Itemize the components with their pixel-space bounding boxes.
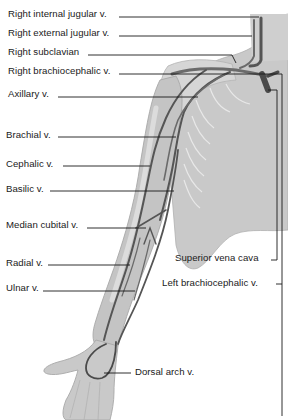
label-ulnar: Ulnar v. — [6, 282, 39, 293]
vein-diagram: Right internal jugular v. Right external… — [0, 0, 288, 420]
label-left-brachiocephalic: Left brachiocephalic v. — [162, 277, 258, 288]
label-axillary: Axillary v. — [8, 88, 49, 99]
label-median-cubital: Median cubital v. — [6, 219, 78, 230]
label-superior-vena-cava: Superior vena cava — [175, 252, 259, 263]
label-dorsal-arch: Dorsal arch v. — [135, 366, 194, 377]
label-radial: Radial v. — [6, 257, 43, 268]
label-right-external-jugular: Right external jugular v. — [8, 27, 109, 38]
label-basilic: Basilic v. — [6, 183, 44, 194]
label-right-brachiocephalic: Right brachiocephalic v. — [8, 65, 110, 76]
label-right-internal-jugular: Right internal jugular v. — [8, 8, 107, 19]
label-cephalic: Cephalic v. — [6, 158, 53, 169]
neck-shape — [250, 14, 288, 62]
anatomy-illustration — [0, 0, 288, 420]
label-right-subclavian: Right subclavian — [8, 46, 79, 57]
hand-shape — [44, 340, 118, 420]
label-brachial: Brachial v. — [6, 129, 51, 140]
